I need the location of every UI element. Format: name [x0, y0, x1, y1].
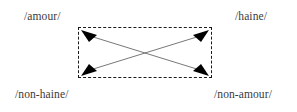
- dashed-square-border: [78, 27, 212, 78]
- label-bottom-left-non-haine: /non-haine/: [15, 88, 68, 100]
- semiotic-square-diagram: /amour/ /haine/ /non-haine/ /non-amour/: [0, 0, 297, 112]
- label-bottom-right-non-amour: /non-amour/: [214, 88, 272, 100]
- label-top-right-haine: /haine/: [235, 10, 267, 22]
- label-top-left-amour: /amour/: [24, 10, 60, 22]
